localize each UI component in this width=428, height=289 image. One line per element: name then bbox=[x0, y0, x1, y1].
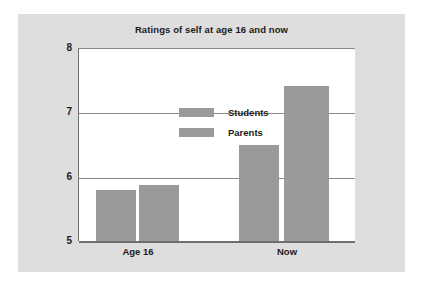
bar-students-age-16 bbox=[96, 190, 136, 241]
bar-parents-age-16 bbox=[139, 185, 179, 241]
x-axis-label-age-16: Age 16 bbox=[78, 246, 198, 257]
legend-label-parents: Parents bbox=[228, 127, 263, 138]
plot-area: Students Parents bbox=[78, 48, 355, 241]
legend-swatch-students-icon bbox=[179, 108, 214, 117]
chart-title: Ratings of self at age 16 and now bbox=[18, 24, 405, 35]
x-axis-label-now: Now bbox=[232, 246, 342, 257]
y-axis-tick-6: 6 bbox=[48, 171, 72, 182]
chart-figure: Ratings of self at age 16 and now 8 7 6 … bbox=[0, 0, 428, 289]
y-axis-tick-7: 7 bbox=[48, 106, 72, 117]
y-axis-tick-5: 5 bbox=[48, 235, 72, 246]
y-axis-tick-8: 8 bbox=[48, 42, 72, 53]
x-axis-line bbox=[79, 241, 355, 243]
bars-layer bbox=[79, 49, 355, 241]
bar-parents-now bbox=[284, 86, 329, 241]
legend-swatch-parents-icon bbox=[179, 128, 214, 137]
chart-legend: Students Parents bbox=[179, 104, 269, 144]
legend-label-students: Students bbox=[228, 107, 269, 118]
legend-item-students: Students bbox=[179, 104, 269, 120]
legend-item-parents: Parents bbox=[179, 124, 269, 140]
bar-students-now bbox=[239, 145, 279, 241]
